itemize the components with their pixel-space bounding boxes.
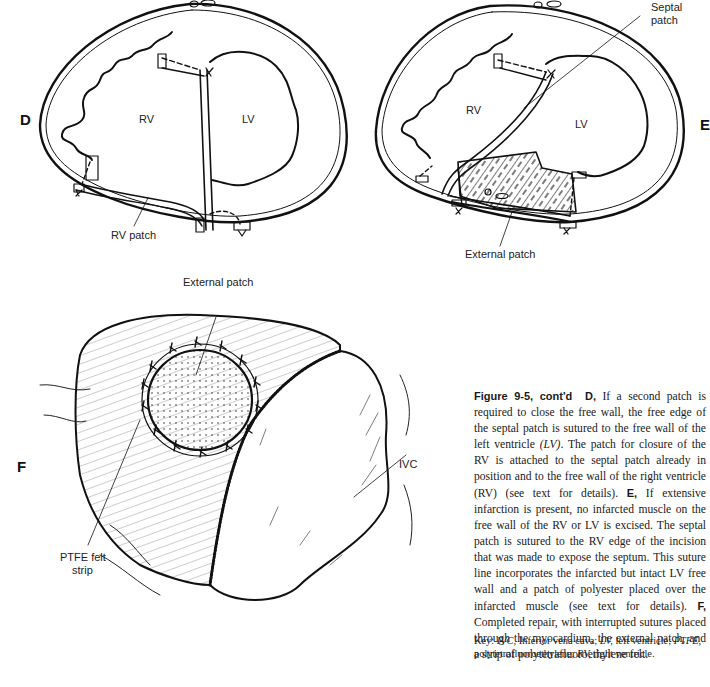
figure-caption: Figure 9-5, cont'd D, If a second patch … [474, 388, 706, 663]
key-rv-def: right ventricle. [591, 648, 655, 659]
key-ivc-def: Inferior vena cava; [516, 635, 600, 646]
label-external-patch-e: External patch [465, 248, 535, 261]
key-ptfe-abbr: PTFE, [674, 635, 701, 646]
completed-repair-heart-illustration [0, 265, 470, 645]
figure-panel-e: E RV LV Septal patch External patch [360, 0, 710, 270]
label-septal-patch-2: patch [651, 14, 678, 27]
label-rv-d: RV [139, 113, 154, 126]
figure-panel-d: D RV LV RV patch [0, 0, 360, 260]
caption-d-letter: D, [585, 390, 596, 402]
label-rv-patch: RV patch [111, 229, 156, 242]
abbreviation-key: Key: IVC, Inferior vena cava; LV, left v… [474, 634, 706, 660]
caption-d-abbr-lv: (LV) [540, 438, 561, 451]
key-ivc-abbr: IVC, [497, 635, 516, 646]
caption-e-letter: E, [627, 487, 637, 499]
label-lv-e: LV [575, 118, 588, 131]
caption-e-text: If extensive infarction is present, no i… [474, 487, 706, 613]
label-rv-e: RV [466, 104, 481, 117]
heart-cross-section-e-illustration [360, 0, 710, 270]
panel-letter-f: F [17, 458, 26, 475]
panel-letter-e: E [700, 116, 710, 133]
heart-cross-section-d-illustration [0, 0, 360, 260]
caption-figure-label: Figure 9-5, cont'd [474, 390, 572, 402]
key-ptfe-def: polytetrafluoroethylene; [474, 648, 577, 659]
label-ptfe-felt-strip-1: PTFE felt [60, 551, 106, 564]
label-external-patch-f: External patch [183, 276, 253, 289]
key-prefix: Key: [474, 635, 497, 646]
caption-f-letter: F, [697, 600, 706, 612]
label-lv-d: LV [242, 113, 255, 126]
key-lv-abbr: LV, [600, 635, 613, 646]
label-septal-patch-1: Septal [651, 1, 682, 14]
figure-panel-f: F External patch IVC PTFE felt strip [0, 265, 470, 645]
label-ivc: IVC [399, 458, 417, 471]
panel-letter-d: D [20, 111, 31, 128]
key-rv-abbr: RV, [577, 648, 591, 659]
key-lv-def: left ventricle; [613, 635, 674, 646]
label-ptfe-felt-strip-2: strip [72, 564, 93, 577]
